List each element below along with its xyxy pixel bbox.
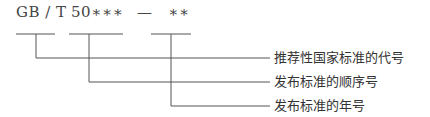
label-standard-code: 推荐性国家标准的代号 [274,50,404,66]
label-year: 发布标准的年号 [274,98,365,114]
label-sequence-number: 发布标准的顺序号 [274,74,378,90]
